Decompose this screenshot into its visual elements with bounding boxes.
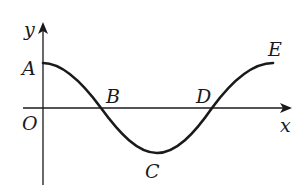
- cosine-curve-diagram: y x O A B C D E: [0, 0, 306, 185]
- point-b-label: B: [105, 85, 120, 107]
- point-d-label: D: [195, 85, 211, 107]
- point-c-label: C: [145, 160, 160, 182]
- y-axis-label: y: [23, 18, 35, 40]
- origin-label: O: [22, 112, 38, 134]
- x-axis-label: x: [280, 114, 291, 136]
- point-e-label: E: [267, 38, 282, 60]
- point-a-label: A: [20, 57, 36, 79]
